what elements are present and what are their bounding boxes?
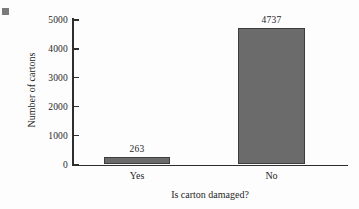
bar-yes[interactable] — [104, 157, 170, 165]
bar-chart-plot: 500040003000200010000 263Yes4737No Numbe… — [0, 0, 359, 209]
y-axis-tick — [74, 164, 79, 165]
x-axis-title: Is carton damaged? — [72, 189, 348, 201]
x-axis-category-label-no: No — [213, 170, 330, 182]
y-axis-tick — [74, 19, 79, 20]
y-axis-tick — [74, 135, 79, 136]
x-axis-line — [72, 165, 348, 167]
y-axis-tick-label-text: 5000 — [32, 15, 68, 25]
bar-value-label-yes: 263 — [84, 144, 190, 155]
y-axis-title: Number of cartons — [26, 25, 38, 155]
bar-no[interactable] — [238, 28, 305, 165]
y-axis-tick-label: 0 — [30, 160, 68, 170]
bar-value-label-no: 4737 — [218, 15, 325, 26]
y-axis-line — [72, 18, 74, 166]
y-axis-tick — [74, 77, 79, 78]
x-axis-category-label-yes: Yes — [79, 170, 195, 182]
y-axis-tick — [74, 48, 79, 49]
y-axis-tick — [74, 106, 79, 107]
y-axis-tick-label: 5000 — [30, 15, 68, 25]
y-axis-tick-label-text: 0 — [32, 160, 68, 170]
chart-page: 500040003000200010000 263Yes4737No Numbe… — [0, 0, 359, 209]
